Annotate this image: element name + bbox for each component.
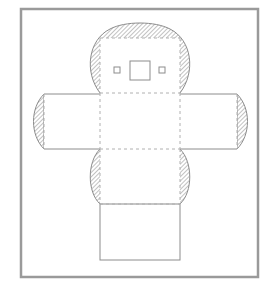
lower-face <box>100 149 180 204</box>
bottom-face <box>100 204 180 260</box>
right-small-window <box>159 67 165 73</box>
right-face <box>180 94 237 149</box>
left-small-window <box>114 67 120 73</box>
right-glue-flap <box>237 94 248 149</box>
box-net-diagram <box>0 0 275 288</box>
left-face <box>44 94 100 149</box>
center-window <box>130 61 150 80</box>
center-face <box>100 93 180 149</box>
left-glue-flap <box>34 94 45 149</box>
